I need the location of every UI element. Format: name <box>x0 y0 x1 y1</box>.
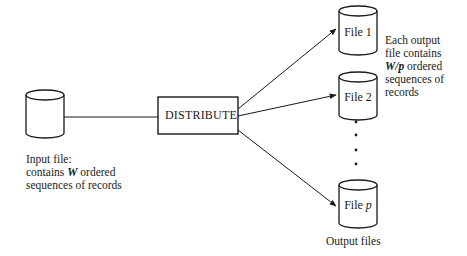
input-file-label: Input file: contains W ordered sequences… <box>26 153 122 192</box>
input-file-cylinder-icon <box>26 90 64 138</box>
arrow-to-file-p <box>238 130 336 206</box>
output-note-line-3: W/p ordered <box>385 60 444 73</box>
output-note-text: ordered <box>404 60 442 72</box>
output-note: Each output file contains W/p ordered se… <box>385 34 444 99</box>
file-2-label: File 2 <box>338 90 378 105</box>
output-note-line-1: Each output <box>385 34 444 47</box>
vertical-ellipsis-icon <box>355 121 358 166</box>
output-files-caption: Output files <box>326 235 381 248</box>
file-p-label-text: File <box>344 198 366 212</box>
input-label-line-3: sequences of records <box>26 179 122 192</box>
input-label-text: ordered <box>77 166 115 178</box>
file-p-label-var: p <box>366 198 372 212</box>
output-note-var-wp: W/p <box>385 60 404 72</box>
input-label-line-2: contains W ordered <box>26 166 122 179</box>
arrow-to-file-1 <box>238 29 336 109</box>
output-note-line-4: sequences of <box>385 73 444 86</box>
input-label-var-w: W <box>67 166 77 178</box>
arrow-to-file-2 <box>238 95 336 116</box>
output-note-line-2: file contains <box>385 47 444 60</box>
output-note-line-5: records <box>385 86 444 99</box>
file-p-label: File p <box>338 198 378 213</box>
input-label-text: contains <box>26 166 67 178</box>
file-1-label: File 1 <box>338 25 378 40</box>
input-label-line-1: Input file: <box>26 153 122 166</box>
distribute-label: DISTRIBUTE <box>165 108 237 123</box>
